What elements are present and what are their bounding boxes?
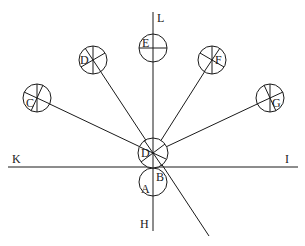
label-F: F: [215, 53, 222, 67]
label-D-upper: D: [80, 53, 89, 67]
optics-diagram: L H K I D A B C D E F G: [0, 0, 305, 246]
label-K: K: [12, 152, 21, 166]
label-G: G: [272, 96, 281, 110]
label-I: I: [285, 152, 289, 166]
circle-F: [198, 46, 226, 74]
label-C: C: [26, 96, 34, 110]
label-L: L: [157, 11, 164, 25]
label-center-D: D: [141, 146, 150, 160]
label-A: A: [141, 182, 150, 196]
label-H: H: [140, 217, 149, 231]
label-E: E: [142, 36, 149, 50]
label-B: B: [156, 170, 164, 184]
